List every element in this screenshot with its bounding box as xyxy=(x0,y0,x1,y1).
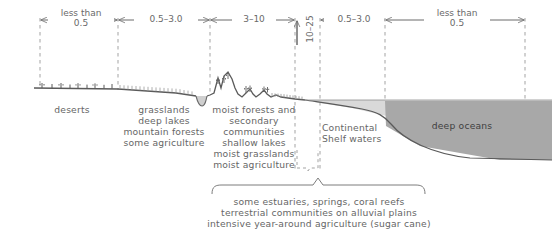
scale-label-desert: less than 0.5 xyxy=(48,8,114,28)
zone-label-deep-oceans: deep oceans xyxy=(418,120,506,131)
diagram-canvas: less than 0.5 0.5–3.0 3–10 10–25 0.5–3.0… xyxy=(0,0,552,234)
caption-line-2: terrestrial communities on alluvial plai… xyxy=(192,207,446,218)
zone-label-moist-forests: moist forests and secondary communities … xyxy=(202,104,306,170)
scale-label-shelf: 0.5–3.0 xyxy=(324,14,384,24)
caption-line-3: intensive year-around agriculture (sugar… xyxy=(192,218,446,229)
scale-label-ocean: less than 0.5 xyxy=(424,8,490,28)
desert-ground-line xyxy=(34,88,118,89)
scale-label-grassland: 0.5–3.0 xyxy=(134,14,198,24)
scale-label-forest: 3–10 xyxy=(232,14,276,24)
zone-label-deserts: deserts xyxy=(32,104,112,115)
caption-line-1: some estuaries, springs, coral reefs xyxy=(192,196,446,207)
scale-label-coast: 10–25 xyxy=(305,5,315,53)
caption-bracket-path xyxy=(212,178,425,194)
zone-label-continental-shelf: Continental Shelf waters xyxy=(322,122,398,144)
